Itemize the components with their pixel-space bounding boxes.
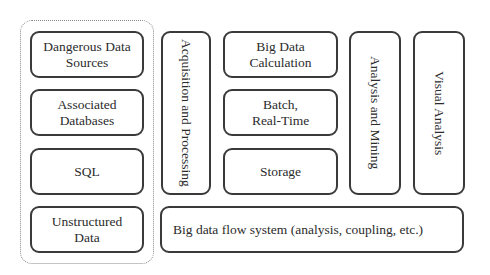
- acquisition-processing-label: Acquisition and Processing: [178, 39, 194, 187]
- associated-databases-box: Associated Databases: [30, 89, 144, 136]
- dangerous-data-sources-label: Dangerous Data Sources: [43, 39, 130, 71]
- acquisition-processing-box: Acquisition and Processing: [161, 31, 211, 195]
- analysis-mining-label: Analysis and Mining: [367, 56, 383, 169]
- big-data-flow-system-box: Big data flow system (analysis, coupling…: [160, 206, 464, 253]
- storage-label: Storage: [260, 164, 301, 180]
- sql-box: SQL: [30, 148, 144, 195]
- visual-analysis-label: Visual Analysis: [431, 71, 447, 155]
- batch-real-time-label: Batch, Real-Time: [252, 97, 309, 129]
- associated-databases-label: Associated Databases: [57, 97, 116, 129]
- storage-box: Storage: [223, 148, 338, 195]
- unstructured-data-box: Unstructured Data: [30, 206, 144, 253]
- big-data-flow-system-label: Big data flow system (analysis, coupling…: [173, 222, 423, 238]
- sql-label: SQL: [74, 164, 100, 180]
- analysis-mining-box: Analysis and Mining: [349, 31, 401, 195]
- unstructured-data-label: Unstructured Data: [52, 214, 122, 246]
- big-data-calculation-box: Big Data Calculation: [223, 31, 338, 78]
- dangerous-data-sources-box: Dangerous Data Sources: [30, 31, 144, 78]
- big-data-calculation-label: Big Data Calculation: [249, 39, 311, 71]
- batch-real-time-box: Batch, Real-Time: [223, 89, 338, 136]
- visual-analysis-box: Visual Analysis: [413, 31, 465, 195]
